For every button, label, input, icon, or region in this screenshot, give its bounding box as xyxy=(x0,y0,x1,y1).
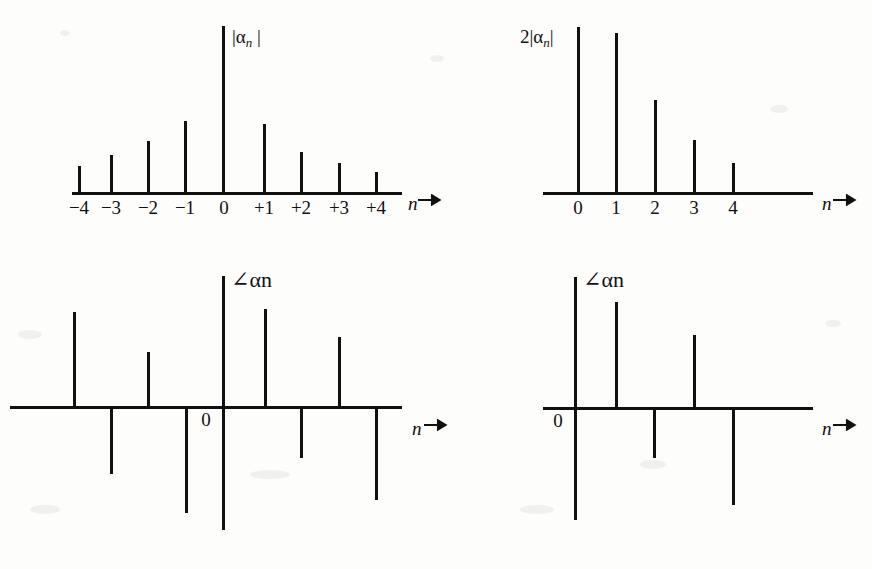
x-tick xyxy=(732,186,735,193)
y-axis-label-phase: ∠αn xyxy=(583,270,624,290)
stem-up-1 xyxy=(615,302,618,408)
x-tick-label-1: 1 xyxy=(601,198,631,217)
stem-n-1 xyxy=(615,33,618,193)
figure-canvas: −4 −3 −2 −1 0 +1 +2 +3 +4 |αn | n xyxy=(0,0,872,569)
panel-trigonometric-magnitude-spectrum: 0 1 2 3 4 2|αn| n xyxy=(0,0,872,230)
x-axis-arrow-icon xyxy=(833,194,859,206)
x-tick xyxy=(693,186,696,193)
panel-trigonometric-phase-spectrum: ∠αn 0 n xyxy=(0,240,872,569)
stem-down-2 xyxy=(732,409,735,505)
origin-label-zero: 0 xyxy=(546,411,570,430)
x-axis-label-n: n xyxy=(822,419,832,439)
x-axis-arrow-icon xyxy=(833,419,859,431)
y-axis-line xyxy=(574,277,577,520)
stem-n-2 xyxy=(654,100,657,193)
x-axis-label-n: n xyxy=(822,194,832,214)
y-axis-label-base: 2|α xyxy=(520,26,543,47)
x-tick-label-4: 4 xyxy=(718,198,748,217)
x-axis-line xyxy=(543,407,813,410)
x-tick xyxy=(654,186,657,193)
y-axis-label-magnitude: 2|αn| xyxy=(520,27,554,53)
stem-up-2 xyxy=(693,335,696,408)
stem-down-1 xyxy=(653,409,656,458)
x-tick-label-2: 2 xyxy=(640,198,670,217)
x-axis-line xyxy=(543,192,813,195)
y-axis-line xyxy=(577,27,580,195)
x-tick xyxy=(615,186,618,193)
y-axis-label-tail: | xyxy=(550,26,554,47)
x-tick-label-3: 3 xyxy=(679,198,709,217)
x-tick-label-0: 0 xyxy=(563,198,593,217)
